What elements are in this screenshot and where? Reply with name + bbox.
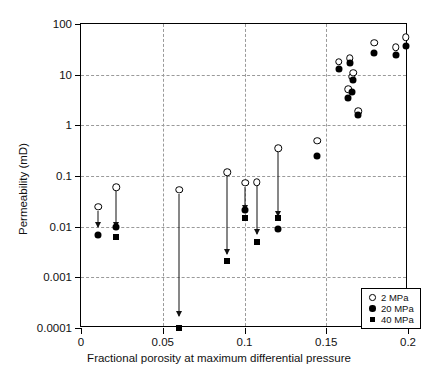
data-point: [242, 215, 248, 221]
data-point: [112, 183, 120, 191]
data-point: [95, 232, 102, 239]
y-tick-mark: [75, 24, 81, 25]
data-point: [176, 325, 182, 331]
data-point: [402, 42, 409, 49]
y-tick-mark: [75, 176, 81, 177]
data-point: [349, 69, 357, 77]
arrow-line: [179, 194, 180, 317]
y-tick-label: 1: [66, 119, 72, 131]
y-axis-title-text: Permeability (mD): [17, 142, 29, 234]
y-tick-label: 100: [53, 18, 72, 30]
y-tick-mark: [75, 75, 81, 76]
arrow-head: [224, 249, 230, 255]
data-point: [275, 225, 282, 232]
data-point: [335, 65, 342, 72]
y-tick-label: 0.001: [43, 271, 72, 283]
data-point: [335, 58, 343, 66]
data-point: [314, 152, 321, 159]
y-tick-label: 0.1: [56, 170, 72, 182]
data-point: [346, 59, 353, 66]
y-tick-label: 10: [59, 69, 72, 81]
legend-item: 2 MPa: [366, 292, 414, 303]
data-point: [350, 76, 357, 83]
legend-item: 20 MPa: [366, 303, 414, 314]
data-point: [254, 239, 260, 245]
legend: 2 MPa20 MPa40 MPa: [361, 288, 421, 329]
data-point: [355, 111, 362, 118]
data-point: [113, 234, 119, 240]
chart-figure: Permeability (mD) 1001010.10.010.0010.00…: [0, 0, 438, 377]
gridline-vertical: [326, 24, 327, 326]
y-tick-label: 0.01: [50, 221, 72, 233]
data-point: [253, 179, 261, 187]
gridline-vertical: [245, 24, 246, 326]
filled-square-icon: [366, 317, 379, 323]
data-point: [242, 207, 249, 214]
x-tick-label: 0.05: [152, 336, 174, 348]
data-point: [392, 43, 400, 51]
y-tick-label: 0.0001: [37, 322, 72, 334]
data-point: [371, 39, 379, 47]
gridline-horizontal: [81, 125, 406, 126]
legend-item-label: 40 MPa: [381, 314, 414, 325]
gridline-horizontal: [81, 227, 406, 228]
plot-area: 1001010.10.010.0010.0001 00.050.10.150.2: [80, 23, 407, 327]
arrow-head: [254, 229, 260, 235]
x-tick-mark: [163, 328, 164, 334]
data-point: [345, 95, 352, 102]
gridline-vertical: [163, 24, 164, 326]
arrow-line: [227, 176, 228, 254]
arrow-line: [278, 152, 279, 215]
data-point: [242, 179, 250, 187]
data-point: [94, 203, 102, 211]
data-point: [371, 49, 378, 56]
legend-item: 40 MPa: [366, 314, 414, 325]
data-point: [274, 145, 282, 153]
y-tick-mark: [75, 277, 81, 278]
data-point: [348, 88, 355, 95]
legend-item-label: 20 MPa: [381, 303, 414, 314]
x-axis-title-text: Fractional porosity at maximum different…: [87, 352, 351, 364]
x-tick-mark: [326, 328, 327, 334]
filled-circle-icon: [366, 305, 379, 312]
y-tick-mark: [75, 227, 81, 228]
arrow-head: [95, 222, 101, 228]
data-point: [175, 186, 183, 194]
gridline-horizontal: [81, 75, 406, 76]
x-axis-title: Fractional porosity at maximum different…: [0, 352, 438, 364]
x-tick-label: 0.2: [400, 336, 416, 348]
x-tick-label: 0.15: [315, 336, 337, 348]
x-tick-mark: [81, 328, 82, 334]
data-point: [275, 215, 281, 221]
gridline-horizontal: [81, 176, 406, 177]
data-point: [224, 258, 230, 264]
y-axis-title: Permeability (mD): [13, 0, 33, 377]
arrow-head: [176, 311, 182, 317]
data-point: [402, 33, 410, 41]
data-point: [314, 137, 322, 145]
open-circle-icon: [366, 294, 379, 301]
data-point: [224, 169, 232, 177]
x-tick-label: 0.1: [237, 336, 253, 348]
gridline-horizontal: [81, 277, 406, 278]
x-tick-mark: [245, 328, 246, 334]
arrow-line: [256, 186, 257, 233]
data-point: [392, 51, 399, 58]
y-tick-mark: [75, 125, 81, 126]
data-point: [113, 223, 120, 230]
x-tick-label: 0: [78, 336, 84, 348]
legend-item-label: 2 MPa: [381, 292, 408, 303]
